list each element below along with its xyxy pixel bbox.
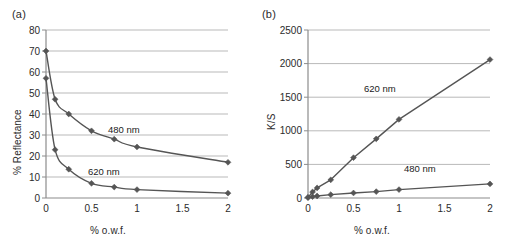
chart-panel-b: (b) K/S 0500100015002000250000.511.52620… [254,0,508,251]
data-point-marker [111,136,117,142]
y-tick-label: 0 [296,193,302,204]
y-tick-label: 80 [29,25,41,36]
series-line-620nm [46,78,228,193]
panel-a-series-label-620nm: 620 nm [88,166,120,177]
data-point-marker [52,147,58,153]
y-tick-label: 20 [29,151,41,162]
panel-a-series-label-480nm: 480 nm [108,124,140,135]
data-point-marker [89,128,95,134]
data-point-marker [89,180,95,186]
x-tick-label: 1 [134,203,140,214]
data-point-marker [134,187,140,193]
y-tick-label: 70 [29,46,41,57]
panel-b-series-label-480nm: 480 nm [404,163,436,174]
series-line-620nm [308,60,490,198]
data-point-marker [43,48,49,54]
x-tick-label: 0.5 [347,203,361,214]
data-point-marker [396,187,402,193]
y-tick-label: 2000 [280,58,303,69]
x-tick-label: 0 [305,203,311,214]
data-point-marker [487,181,493,187]
x-tick-label: 0 [43,203,49,214]
x-tick-label: 1.5 [176,203,190,214]
data-point-marker [225,190,231,196]
y-tick-label: 1000 [280,125,303,136]
y-tick-label: 60 [29,67,41,78]
data-point-marker [373,189,379,195]
x-tick-label: 2 [487,203,493,214]
x-tick-label: 1.5 [438,203,452,214]
x-tick-label: 0.5 [85,203,99,214]
x-tick-label: 2 [225,203,231,214]
y-tick-label: 1500 [280,92,303,103]
y-tick-label: 10 [29,172,41,183]
data-point-marker [43,75,49,81]
panel-b-plot-area: 0500100015002000250000.511.52620 nm480 n… [254,0,508,251]
data-point-marker [351,190,357,196]
data-point-marker [134,144,140,150]
data-point-marker [111,184,117,190]
panel-b-x-axis-title: % o.w.f. [354,225,390,236]
y-tick-label: 2500 [280,25,303,36]
data-point-marker [328,192,334,198]
y-tick-label: 50 [29,88,41,99]
y-tick-label: 30 [29,130,41,141]
y-tick-label: 0 [34,193,40,204]
figure-container: (a) % Reflectance 0102030405060708000.51… [0,0,508,251]
panel-a-x-axis-title: % o.w.f. [90,225,126,236]
panel-b-series-label-620nm: 620 nm [364,83,396,94]
data-point-marker [225,159,231,165]
x-tick-label: 1 [396,203,402,214]
data-point-marker [52,96,58,102]
y-tick-label: 40 [29,109,41,120]
chart-panel-a: (a) % Reflectance 0102030405060708000.51… [0,0,254,251]
panel-a-plot-area: 0102030405060708000.511.52480 nm620 nm [0,0,254,251]
y-tick-label: 500 [285,159,302,170]
